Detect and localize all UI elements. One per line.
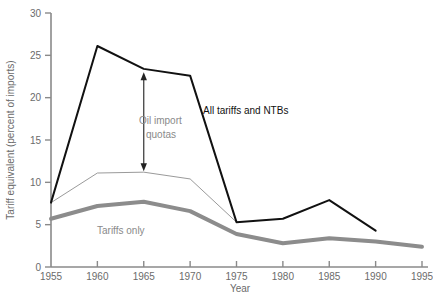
x-tick-label: 1980 (272, 271, 295, 282)
tariff-equivalent-line-chart: 051015202530 195519601965197019751980198… (0, 0, 433, 300)
x-axis-tick-labels: 195519601965197019751980198519901995 (40, 271, 433, 282)
y-axis-title: Tariff equivalent (percent of imports) (5, 60, 16, 219)
x-tick-label: 1985 (318, 271, 341, 282)
x-tick-label: 1990 (365, 271, 388, 282)
all-tariffs-and-ntbs-label: All tariffs and NTBs (203, 105, 288, 116)
y-tick-label: 5 (35, 219, 41, 230)
oil-import-quotas-label-line1: Oil import (139, 115, 182, 126)
oil-import-quotas-label-line2: quotas (146, 129, 176, 140)
x-tick-label: 1960 (86, 271, 109, 282)
y-tick-label: 25 (30, 50, 42, 61)
x-tick-label: 1970 (179, 271, 202, 282)
data-series-group (51, 46, 422, 247)
x-tick-label: 1965 (133, 271, 156, 282)
y-axis-tick-labels: 051015202530 (30, 8, 42, 273)
tariffs-only-label: Tariffs only (97, 225, 145, 236)
x-tick-label: 1955 (40, 271, 63, 282)
y-axis-ticks (45, 13, 51, 267)
x-tick-label: 1995 (411, 271, 433, 282)
annotation-oil-import-quotas: Oil import quotas (139, 72, 182, 171)
chart-container: 051015202530 195519601965197019751980198… (0, 0, 433, 300)
y-tick-label: 10 (30, 177, 42, 188)
y-tick-label: 30 (30, 8, 42, 19)
x-axis-title: Year (230, 283, 251, 294)
y-tick-label: 20 (30, 92, 42, 103)
y-tick-label: 15 (30, 135, 42, 146)
arrow-head-up (141, 72, 147, 80)
x-axis-ticks (97, 261, 422, 267)
series-line (51, 46, 376, 231)
x-tick-label: 1975 (225, 271, 248, 282)
series-line (51, 172, 237, 222)
arrow-head-down (141, 163, 147, 171)
